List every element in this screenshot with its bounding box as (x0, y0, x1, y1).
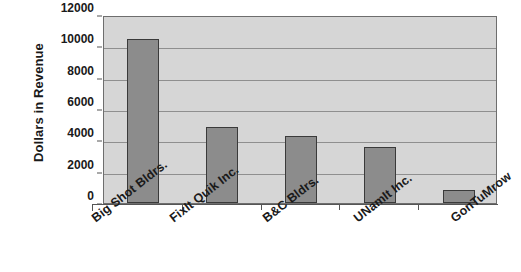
x-axis-tick-label: B&C Bldrs. (260, 173, 321, 225)
x-axis-tick-label: Big Shot Bldrs. (89, 157, 170, 225)
bar-chart-figure: Dollars in Revenue 020004000600080001000… (0, 0, 521, 272)
x-axis-tick-label: UNamIt Inc. (351, 171, 415, 225)
x-axis-tick-labels: Big Shot Bldrs.FixIt Quik Inc.B&C Bldrs.… (0, 0, 521, 272)
x-axis-tick-label: FixIt Quik Inc. (167, 163, 241, 225)
x-axis-tick-label: GonTuMrow (448, 169, 514, 225)
